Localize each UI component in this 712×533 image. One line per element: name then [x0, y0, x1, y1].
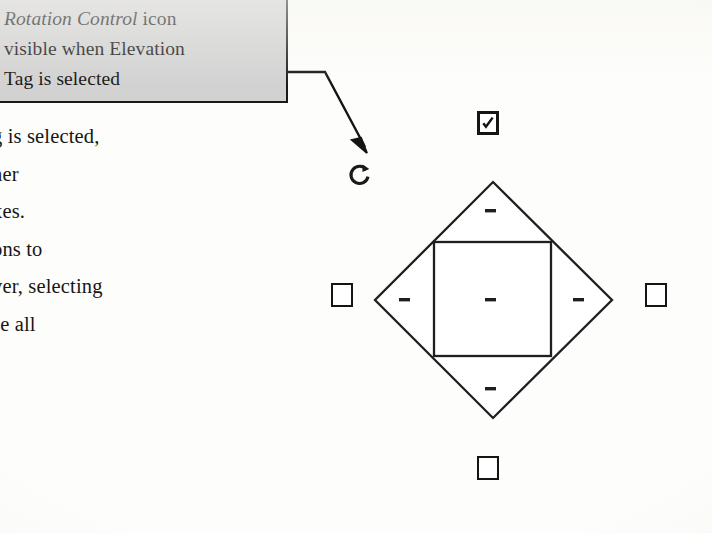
- dash-top-icon: [485, 209, 496, 212]
- elevation-tag-diamond: [360, 168, 628, 434]
- callout-line-1: Rotation Control icon: [4, 4, 272, 34]
- scanned-figure-page: Rotation Control icon visible when Eleva…: [0, 0, 712, 533]
- leader-path: [288, 72, 365, 147]
- body-line: se all: [0, 306, 292, 344]
- dash-center-icon: [485, 298, 496, 301]
- callout-line-3: Tag is selected: [4, 64, 272, 94]
- body-line: her: [0, 156, 292, 194]
- rotation-control-icon[interactable]: [345, 160, 377, 192]
- callout-italic-term: Rotation Control: [4, 8, 138, 29]
- rotation-arrowhead-icon: [362, 165, 369, 173]
- checkmark-icon: [480, 114, 496, 132]
- rotation-control-callout: Rotation Control icon visible when Eleva…: [0, 0, 288, 103]
- callout-text-block: Rotation Control icon visible when Eleva…: [4, 4, 272, 94]
- checkbox-top-checked[interactable]: [477, 111, 499, 135]
- dash-right-icon: [573, 298, 584, 301]
- body-line: ons to: [0, 231, 292, 269]
- body-line: g is selected,: [0, 118, 292, 156]
- dash-bottom-icon: [485, 387, 496, 390]
- callout-line-2: visible when Elevation: [4, 34, 272, 64]
- checkbox-bottom-unchecked[interactable]: [477, 456, 499, 480]
- body-paragraph-clipped: g is selected, her xes. ons to ver, sele…: [0, 118, 292, 343]
- leader-arrowhead-icon: [352, 138, 367, 153]
- callout-line-1-plain: icon: [138, 8, 177, 29]
- body-line: xes.: [0, 193, 292, 231]
- checkbox-left-unchecked[interactable]: [331, 283, 353, 307]
- checkbox-right-unchecked[interactable]: [645, 283, 667, 307]
- body-line: ver, selecting: [0, 268, 292, 306]
- dash-left-icon: [399, 298, 410, 301]
